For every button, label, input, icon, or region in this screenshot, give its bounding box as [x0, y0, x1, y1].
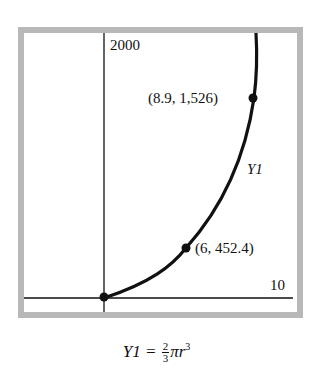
equation-caption: Y1 = 23πr3: [0, 341, 313, 364]
point2-label: (6, 452.4): [195, 241, 254, 256]
point-6: [182, 244, 191, 253]
curve-label: Y1: [247, 162, 263, 177]
plot: [0, 0, 313, 386]
point-8-9: [249, 94, 258, 103]
y-max-label: 2000: [110, 38, 140, 53]
origin-point: [100, 293, 109, 302]
denominator: 3: [162, 353, 170, 364]
exponent: 3: [185, 341, 190, 352]
fraction: 23: [162, 341, 170, 364]
eq-lhs: Y1 =: [123, 342, 157, 361]
eq-rest: πr: [170, 342, 185, 361]
x-max-label: 10: [270, 278, 285, 293]
curve-y1: [104, 33, 257, 298]
point1-label: (8.9, 1,526): [148, 91, 218, 106]
